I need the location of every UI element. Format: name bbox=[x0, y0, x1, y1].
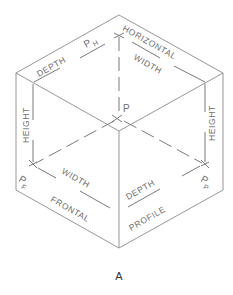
label-depth-top: DEPTH bbox=[35, 54, 68, 78]
label-width-front: WIDTH bbox=[60, 166, 92, 190]
figure-caption: A bbox=[115, 270, 123, 282]
label-p: P bbox=[123, 103, 130, 114]
label-depth-profile: DEPTH bbox=[124, 177, 157, 201]
label-height-left: HEIGHT bbox=[21, 107, 31, 143]
label-pp: P P bbox=[197, 173, 214, 191]
label-frontal: FRONTAL bbox=[49, 194, 92, 224]
label-horizontal: HORIZONTAL bbox=[121, 23, 178, 61]
label-profile: PROFILE bbox=[127, 204, 167, 233]
p-marker-icon bbox=[112, 115, 122, 122]
label-width-top: WIDTH bbox=[132, 52, 164, 76]
label-ph-main: P bbox=[82, 37, 94, 50]
label-pf: P F bbox=[15, 173, 31, 191]
projection-cube-diagram: HORIZONTAL FRONTAL PROFILE DEPTH WIDTH H… bbox=[0, 0, 233, 295]
label-height-right: HEIGHT bbox=[207, 105, 217, 141]
